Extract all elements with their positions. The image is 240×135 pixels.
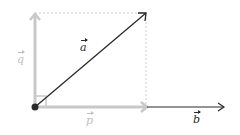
vector-q-arrow [30, 14, 40, 107]
vector-a-arrow [35, 13, 146, 107]
label-q: q [17, 54, 24, 65]
vector-diagram [0, 0, 240, 135]
origin-point [32, 104, 39, 111]
vector-b-arrow [147, 103, 224, 111]
label-a: a [80, 42, 87, 53]
label-b: b [193, 114, 200, 125]
label-p: p [86, 115, 93, 126]
